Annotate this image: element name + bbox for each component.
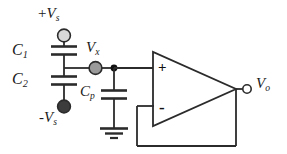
label-supply-negative: -Vs <box>39 110 57 126</box>
circuit-diagram-canvas: +Vs -Vs C1 C2 Vx Cp Vo + - <box>0 0 287 154</box>
label-supply-negative-subscript: s <box>53 116 57 127</box>
label-capacitor-c2-symbol: C <box>12 70 23 87</box>
label-node-vx: Vx <box>86 40 99 56</box>
label-capacitor-c1-subscript: 1 <box>23 49 28 60</box>
label-capacitor-c1-symbol: C <box>12 41 23 58</box>
opamp-inverting-input-label: - <box>159 99 165 116</box>
label-capacitor-cp-symbol: C <box>80 83 90 99</box>
label-capacitor-cp-subscript: p <box>90 90 95 101</box>
label-node-vx-symbol: V <box>86 39 95 55</box>
label-capacitor-c2: C2 <box>12 71 28 89</box>
node-vx-marker <box>89 62 102 75</box>
label-node-vx-subscript: x <box>95 46 99 57</box>
schematic-svg <box>0 0 287 154</box>
label-capacitor-c1: C1 <box>12 42 28 60</box>
label-supply-positive-symbol: V <box>46 5 55 21</box>
terminal-supply-positive <box>58 29 71 42</box>
label-supply-positive-subscript: s <box>56 12 60 23</box>
label-capacitor-cp: Cp <box>80 84 95 100</box>
label-output-vo-subscript: o <box>265 82 270 93</box>
label-supply-negative-symbol: V <box>44 109 53 125</box>
opamp-noninverting-input-label: + <box>158 60 167 75</box>
terminal-supply-negative <box>58 100 71 113</box>
terminal-output <box>243 85 251 93</box>
label-output-vo-symbol: V <box>256 75 265 91</box>
label-capacitor-c2-subscript: 2 <box>23 78 28 89</box>
label-output-vo: Vo <box>256 76 270 92</box>
label-supply-positive: +Vs <box>38 6 59 22</box>
